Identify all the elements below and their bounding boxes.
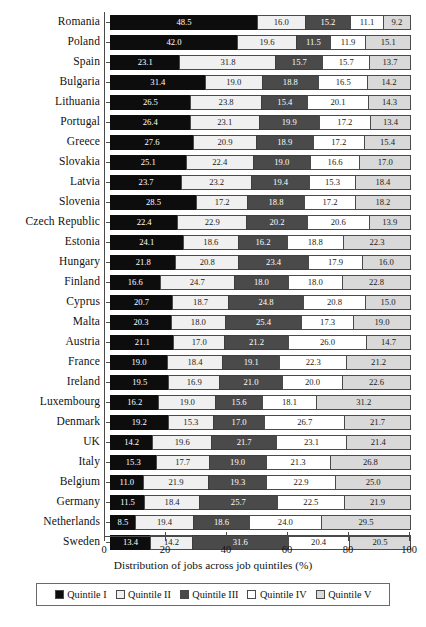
category-label: Italy [0,456,106,468]
bar-segment-quintile-4: 17.2 [313,135,365,150]
legend-swatch-icon [247,590,256,599]
bar-segment-quintile-1: 11.5 [110,495,145,510]
bar-segment-quintile-1: 27.6 [110,135,194,150]
chart-row: UK14.219.621.723.121.4 [0,432,426,452]
category-label: Romania [0,16,106,28]
category-label: Lithuania [0,96,106,108]
bar-segment-quintile-2: 22.9 [177,215,247,230]
bar-segment-quintile-3: 19.9 [259,115,320,130]
bar-segment-quintile-4: 16.5 [318,75,368,90]
bar-segment-quintile-4: 18.0 [288,275,343,290]
bar-segment-quintile-4: 20.8 [303,295,366,310]
chart-row: Austria21.117.021.226.014.7 [0,332,426,352]
bar-segment-quintile-5: 25.0 [335,475,411,490]
bar-segment-quintile-5: 22.8 [342,275,412,290]
bar-segment-quintile-5: 9.2 [383,15,411,30]
bar-segment-quintile-5: 21.9 [344,495,411,510]
bar-segment-quintile-3: 18.0 [234,275,289,290]
chart-row: Slovakia25.122.419.016.617.0 [0,152,426,172]
bar-segment-quintile-3: 15.7 [275,55,323,70]
chart-row: Estonia24.118.616.218.822.3 [0,232,426,252]
bar-segment-quintile-5: 13.9 [369,215,411,230]
bar-segment-quintile-2: 19.0 [205,75,263,90]
bar-segment-quintile-4: 20.6 [307,215,370,230]
bar-segment-quintile-2: 20.8 [175,255,238,270]
bar-segment-quintile-1: 26.5 [110,95,191,110]
bar-segment-quintile-3: 16.2 [238,235,287,250]
stacked-bar: 24.118.616.218.822.3 [110,235,415,250]
bar-segment-quintile-2: 17.2 [196,195,248,210]
legend-item: Quintile I [55,589,107,600]
stacked-bar: 20.718.724.820.815.0 [110,295,415,310]
x-axis-label: Distribution of jobs across job quintile… [0,559,426,571]
category-label: Luxembourg [0,396,106,408]
category-label: Hungary [0,256,106,268]
bar-segment-quintile-2: 21.9 [143,475,210,490]
category-label: Denmark [0,416,106,428]
category-label: Belgium [0,476,106,488]
x-axis-tick-label: 40 [221,544,232,555]
bar-segment-quintile-1: 22.4 [110,215,178,230]
x-axis-tick [104,532,105,541]
category-label: Latvia [0,176,106,188]
legend-item: Quintile II [116,589,171,600]
stacked-bar: 19.516.921.020.022.6 [110,375,415,390]
bar-segment-quintile-3: 18.8 [247,195,304,210]
x-axis-tick-label: 60 [282,544,293,555]
bar-segment-quintile-2: 15.3 [168,415,215,430]
bar-segment-quintile-2: 20.9 [193,135,257,150]
legend-item: Quintile III [180,589,239,600]
bar-segment-quintile-2: 18.4 [144,495,200,510]
bar-segment-quintile-1: 14.2 [110,435,153,450]
stacked-bar: 23.723.219.415.318.4 [110,175,415,190]
legend-label: Quintile V [328,589,371,600]
chart-row: Denmark19.215.317.026.721.7 [0,412,426,432]
bar-segment-quintile-1: 11.0 [110,475,144,490]
legend-item: Quintile V [316,589,372,600]
category-label: Finland [0,276,106,288]
bar-segment-quintile-5: 15.1 [365,35,411,50]
bar-segment-quintile-4: 17.9 [308,255,363,270]
bar-segment-quintile-3: 15.2 [305,15,351,30]
bar-segment-quintile-3: 11.5 [296,35,331,50]
bar-segment-quintile-5: 22.6 [342,375,411,390]
bar-segment-quintile-3: 21.7 [211,435,277,450]
stacked-bar: 21.820.823.417.916.0 [110,255,415,270]
x-axis-tick [165,532,166,541]
bar-segment-quintile-1: 16.2 [110,395,159,410]
bar-segment-quintile-1: 28.5 [110,195,197,210]
category-label: UK [0,436,106,448]
bar-segment-quintile-1: 48.5 [110,15,258,30]
bar-segment-quintile-5: 19.0 [353,315,411,330]
chart-row: Bulgaria31.419.018.816.514.2 [0,72,426,92]
bar-segment-quintile-2: 16.9 [168,375,220,390]
chart-row: Netherlands8.519.418.624.029.5 [0,512,426,532]
legend-item: Quintile IV [247,589,306,600]
stacked-bar: 26.523.815.420.114.3 [110,95,415,110]
bar-segment-quintile-4: 11.9 [330,35,366,50]
category-label: Portugal [0,116,106,128]
category-label: Cyprus [0,296,106,308]
bar-segment-quintile-4: 16.6 [310,155,361,170]
category-label: Greece [0,136,106,148]
x-axis-tick [226,532,227,541]
x-axis-tick-label: 100 [401,544,417,555]
stacked-bar: 48.516.015.211.19.2 [110,15,415,30]
bar-segment-quintile-1: 21.8 [110,255,176,270]
bar-segment-quintile-1: 26.4 [110,115,191,130]
bar-segment-quintile-4: 18.1 [262,395,317,410]
legend: Quintile IQuintile IIQuintile IIIQuintil… [36,583,390,606]
chart-row: Slovenia28.517.218.817.218.2 [0,192,426,212]
bar-segment-quintile-4: 22.3 [279,355,347,370]
bar-segment-quintile-2: 19.6 [237,35,297,50]
chart-row: Luxembourg16.219.015.618.131.2 [0,392,426,412]
bar-segment-quintile-1: 19.5 [110,375,169,390]
stacked-bar: 15.317.719.021.326.8 [110,455,415,470]
category-label: Slovakia [0,156,106,168]
bar-segment-quintile-5: 22.3 [343,235,411,250]
legend-label: Quintile II [128,589,171,600]
bar-segment-quintile-3: 21.2 [224,335,289,350]
bar-segment-quintile-3: 24.8 [228,295,304,310]
stacked-bar: 22.422.920.220.613.9 [110,215,415,230]
x-axis-tick [287,532,288,541]
